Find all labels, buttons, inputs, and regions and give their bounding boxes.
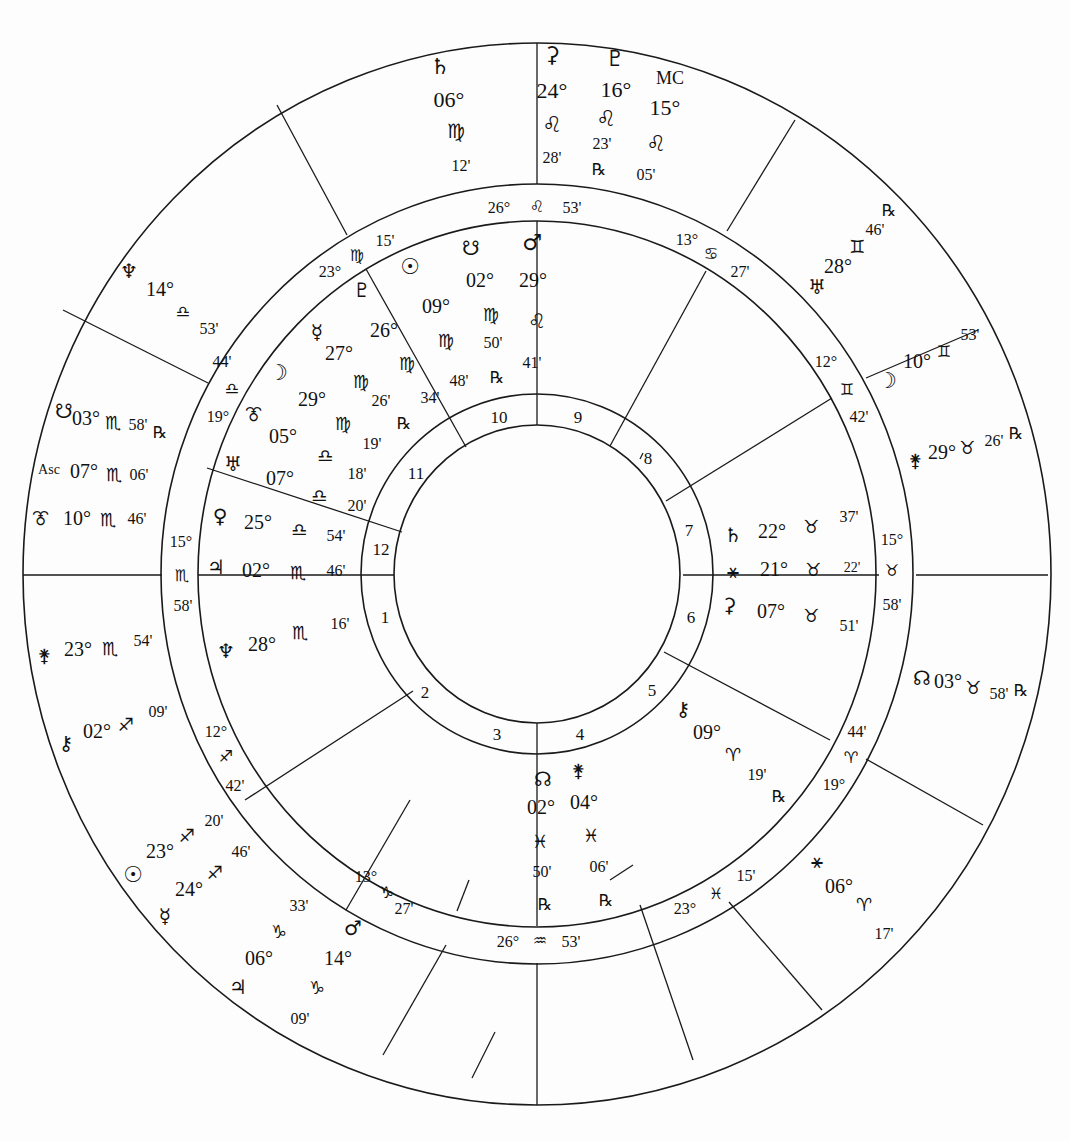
- astro-glyph-icon: ♊: [849, 236, 865, 257]
- astro-glyph-icon: ♌: [528, 309, 546, 333]
- position-label: 07°: [266, 467, 294, 489]
- position-label: 09°: [693, 721, 721, 743]
- position-label: 29°: [928, 441, 956, 463]
- astro-glyph-icon: ♑: [271, 921, 287, 942]
- astro-glyph-icon: ♍: [399, 353, 415, 374]
- house-cusp-line: [346, 800, 410, 910]
- astro-glyph-icon: ♉: [885, 561, 899, 580]
- astro-glyph-icon: ♉: [959, 437, 975, 458]
- astro-glyph-icon: ♏: [102, 638, 118, 659]
- position-label: 09': [291, 1010, 310, 1027]
- astro-glyph-icon: ♎: [176, 302, 190, 321]
- position-label: 23°: [319, 263, 341, 280]
- position-label: 02°: [527, 796, 555, 818]
- position-label: 46': [866, 221, 885, 238]
- position-label: 44': [213, 353, 232, 370]
- astro-glyph-icon: ⚵: [37, 645, 50, 666]
- position-label: 44': [848, 723, 867, 740]
- position-label: MC: [656, 68, 684, 88]
- position-label: 26': [372, 392, 391, 409]
- position-label: 53': [200, 320, 219, 337]
- astro-glyph-icon: ♌: [646, 131, 666, 156]
- astro-glyph-icon: ♍: [350, 246, 364, 265]
- position-label: 21°: [760, 558, 788, 580]
- astro-glyph-icon: ♓: [532, 831, 548, 852]
- position-label: 06°: [434, 87, 465, 112]
- house-cusp-line: [640, 905, 693, 1060]
- astro-glyph-icon: ♐: [207, 862, 223, 883]
- astro-glyph-icon: ♏: [100, 509, 116, 530]
- astro-glyph-icon: ⚳: [544, 42, 560, 67]
- astro-glyph-icon: ℞: [397, 414, 411, 433]
- house-cusp-line: [472, 1032, 495, 1078]
- position-label: 27': [731, 263, 750, 280]
- position-label: 23°: [146, 840, 174, 862]
- astro-glyph-icon: ♇: [353, 278, 371, 302]
- astro-glyph-icon: ♎: [225, 379, 239, 398]
- position-label: 14°: [146, 278, 174, 300]
- house-cusp-line: [729, 902, 822, 1010]
- astro-glyph-icon: ♈: [844, 748, 858, 767]
- position-label: 53': [562, 933, 581, 950]
- position-label: 03°: [934, 670, 962, 692]
- position-label: 26°: [497, 933, 519, 950]
- position-label: 23°: [674, 900, 696, 917]
- position-label: 54': [327, 527, 346, 544]
- astro-glyph-icon: ⚹: [727, 559, 739, 583]
- house-numbers: 109876543211211: [373, 408, 696, 744]
- position-label: 50': [484, 334, 503, 351]
- position-label: 51': [840, 617, 859, 634]
- position-label: 02°: [83, 720, 111, 742]
- position-label: 29°: [298, 388, 326, 410]
- house-cusp-line: [277, 105, 347, 235]
- house-number: 11: [408, 464, 424, 483]
- astro-glyph-icon: ☊: [913, 666, 931, 690]
- position-label: 28': [543, 149, 562, 166]
- position-label: 19': [363, 435, 382, 452]
- astro-glyph-icon: ⚷: [59, 731, 74, 755]
- position-label: 26': [985, 432, 1004, 449]
- position-label: 18': [348, 465, 367, 482]
- house-number: 1: [381, 608, 390, 627]
- house-cusp-line: [727, 120, 795, 231]
- astro-glyph-icon: ♃: [207, 555, 225, 579]
- astro-glyph-icon: ⚳: [722, 593, 737, 617]
- astro-glyph-icon: ☽: [268, 360, 288, 385]
- position-label: 27°: [325, 342, 353, 364]
- astro-glyph-icon: ♅: [224, 452, 242, 476]
- astro-glyph-icon: ♏: [290, 562, 306, 583]
- position-label: 06': [590, 858, 609, 875]
- position-label: 10°: [63, 507, 91, 529]
- astro-glyph-icon: ♐: [219, 747, 233, 766]
- position-label: 58': [883, 596, 902, 613]
- position-label: 23': [593, 135, 612, 152]
- astro-glyph-icon: ℞: [490, 368, 504, 387]
- position-label: 22°: [758, 520, 786, 542]
- astro-glyph-icon: ♒: [533, 931, 547, 950]
- house-cusp-line: [245, 691, 413, 800]
- position-label: 27': [395, 900, 414, 917]
- astro-glyph-icon: ℞: [772, 787, 786, 806]
- astro-glyph-icon: ☋: [55, 399, 73, 423]
- astro-glyph-icon: ♎: [311, 485, 327, 506]
- astro-glyph-icon: ♏: [106, 464, 122, 485]
- position-label: 13°: [676, 231, 698, 248]
- astro-glyph-icon: ♓: [709, 884, 723, 903]
- astro-glyph-icon: ⚹: [811, 849, 823, 873]
- position-label: 50': [533, 863, 552, 880]
- planet-position-labels: ♄06°♍12'⚳24°♌28'♇16°♌23'℞MC15°♌05'26°♌53…: [32, 42, 1029, 1027]
- astro-glyph-icon: ♏: [292, 622, 308, 643]
- position-label: 10°: [903, 350, 931, 372]
- position-label: 09': [149, 703, 168, 720]
- astro-glyph-icon: ♄: [430, 54, 450, 79]
- astro-glyph-icon: ♑: [309, 977, 325, 998]
- astro-glyph-icon: ♊: [840, 380, 854, 399]
- astro-glyph-icon: ♍: [335, 413, 351, 434]
- astro-glyph-icon: ♌: [542, 112, 562, 137]
- position-label: 16': [331, 615, 350, 632]
- position-label: 42': [850, 408, 869, 425]
- position-label: 58': [129, 416, 148, 433]
- astro-glyph-icon: ☋: [462, 236, 480, 260]
- position-label: 23°: [64, 638, 92, 660]
- position-label: 28°: [824, 255, 852, 277]
